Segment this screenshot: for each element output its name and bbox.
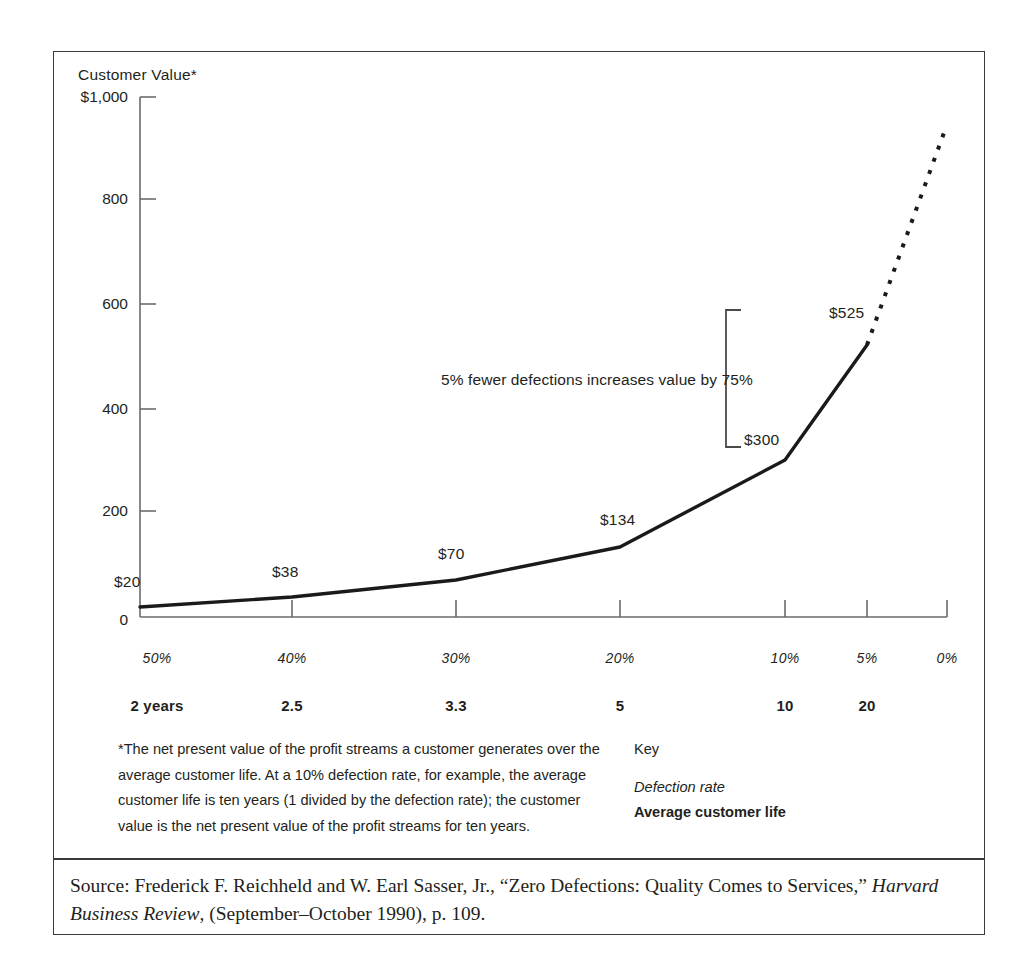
source-tail: , (September–October 1990), p. 109.	[199, 903, 485, 924]
life-label-2-years: 2 years	[130, 697, 183, 714]
key-defection-rate: Defection rate	[634, 775, 894, 801]
y-tick-label-800: 800	[62, 190, 128, 208]
life-label-2-5: 2.5	[281, 697, 302, 714]
key-average-customer-life: Average customer life	[634, 800, 894, 826]
exhibit-page: Customer Value* $1,000 800 600 400 200 0…	[0, 0, 1027, 968]
key-block: Key Defection rate Average customer life	[634, 737, 894, 826]
point-label-20: $20	[114, 573, 140, 591]
footnote-text: *The net present value of the profit str…	[118, 737, 618, 839]
x-tick-label-0pct: 0%	[937, 650, 958, 666]
life-label-3-3: 3.3	[445, 697, 466, 714]
source-divider	[54, 858, 984, 860]
y-axis-title: Customer Value*	[78, 66, 197, 84]
source-lead: Source: Frederick F. Reichheld and W. Ea…	[70, 875, 872, 896]
source-citation: Source: Frederick F. Reichheld and W. Ea…	[70, 872, 975, 928]
bracket-annotation-text: 5% fewer defections increases value by 7…	[441, 371, 753, 389]
point-label-38: $38	[272, 563, 298, 581]
point-label-300: $300	[744, 431, 779, 449]
y-tick-label-1000: $1,000	[62, 88, 128, 106]
y-tick-label-600: 600	[62, 295, 128, 313]
x-tick-label-10pct: 10%	[771, 650, 800, 666]
life-label-5: 5	[616, 697, 625, 714]
life-label-20: 20	[858, 697, 875, 714]
x-tick-label-40pct: 40%	[278, 650, 307, 666]
point-label-134: $134	[600, 511, 635, 529]
y-tick-label-400: 400	[62, 400, 128, 418]
y-tick-label-0: 0	[62, 611, 128, 629]
y-tick-label-200: 200	[62, 502, 128, 520]
x-tick-label-20pct: 20%	[606, 650, 635, 666]
point-label-525: $525	[829, 304, 864, 322]
x-tick-label-5pct: 5%	[857, 650, 878, 666]
life-label-10: 10	[776, 697, 793, 714]
key-title: Key	[634, 737, 894, 763]
x-tick-label-30pct: 30%	[442, 650, 471, 666]
x-tick-label-50pct: 50%	[143, 650, 172, 666]
point-label-70: $70	[438, 545, 464, 563]
